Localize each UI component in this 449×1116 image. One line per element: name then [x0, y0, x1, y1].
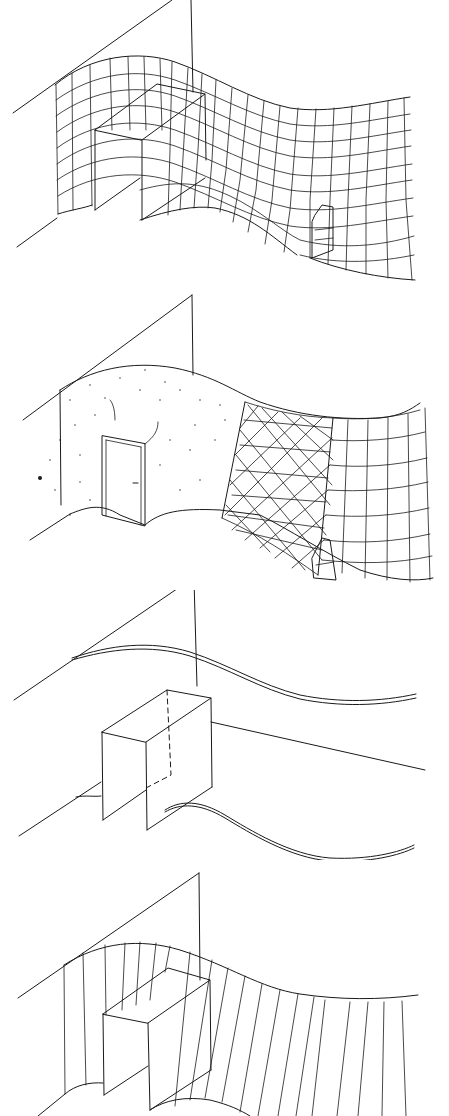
corner-vertical-line [192, 295, 193, 375]
grid-wall-drawing [0, 0, 449, 290]
ceiling-edge-line [23, 295, 192, 420]
ceiling-edge-line [14, 590, 190, 700]
floor-edge-line [38, 1094, 65, 1116]
edge-lines-drawing [0, 590, 449, 860]
ceiling-edge-line [18, 873, 199, 998]
panel-ruled-wall [0, 860, 449, 1116]
lower-wall-edge-double [165, 803, 414, 860]
floor-junction-line [211, 722, 425, 770]
wall-bottom-edge [58, 205, 415, 280]
door [102, 400, 158, 526]
stipple-texture [38, 369, 226, 515]
panel-grid-wall [0, 0, 449, 290]
grid-horizontal-lines [56, 74, 414, 262]
doorway-box [103, 968, 211, 1110]
floor-edge-line [19, 782, 101, 836]
ruled-wall-drawing [0, 860, 449, 1116]
panel-textured-wall [0, 290, 449, 590]
corner-vertical-line [191, 0, 193, 92]
wall-top-edge [64, 943, 418, 998]
upper-wall-edge-double [72, 645, 416, 704]
floor-edge-double [76, 796, 101, 797]
wall-top-edge [55, 56, 410, 110]
panel-edge-lines [0, 590, 449, 860]
corner-vertical-line [194, 590, 197, 686]
grid-vertical-lines [56, 57, 412, 280]
floor-edge-line [30, 514, 70, 540]
corner-vertical-line [199, 873, 200, 980]
doorway-box [102, 690, 212, 830]
textured-wall-drawing [0, 290, 449, 590]
wall-left-edge [60, 390, 61, 505]
vertical-ruling-lines [64, 942, 406, 1116]
grid-section [322, 408, 432, 582]
floor-edge-line [17, 218, 57, 247]
